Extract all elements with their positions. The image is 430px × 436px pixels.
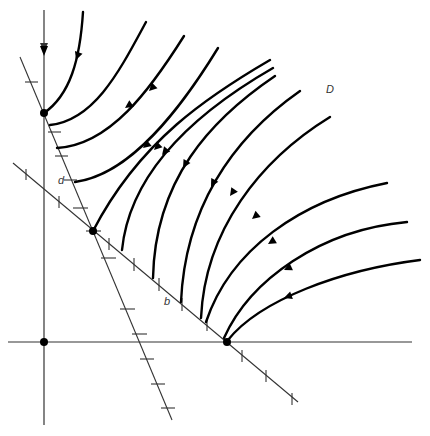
point-label-b: b [164,295,170,307]
flow-arrows [40,46,293,302]
origin-point [40,338,48,346]
arrow-icon [227,187,238,198]
arrow-icon [283,292,293,302]
trajectory [206,183,387,322]
axes [8,10,412,425]
trajectory [50,22,146,125]
region-label-D: D [326,83,334,95]
trajectory [75,48,218,182]
trajectory [228,260,420,340]
trajectory [181,91,300,302]
arrow-icon [40,46,48,56]
arrow-icon [249,211,260,222]
y-axis-equilibrium-point [40,109,48,117]
phase-portrait-svg: D d b [0,0,430,436]
trajectory [224,222,407,338]
arrow-icon [266,236,277,247]
intersection-equilibrium-point [89,227,97,235]
phase-portrait: D d b [0,0,430,436]
trajectories [44,12,420,340]
shallow-isocline [13,163,298,405]
x-axis-equilibrium-point [223,338,231,346]
point-label-d: d [58,174,65,186]
trajectory [44,12,83,113]
